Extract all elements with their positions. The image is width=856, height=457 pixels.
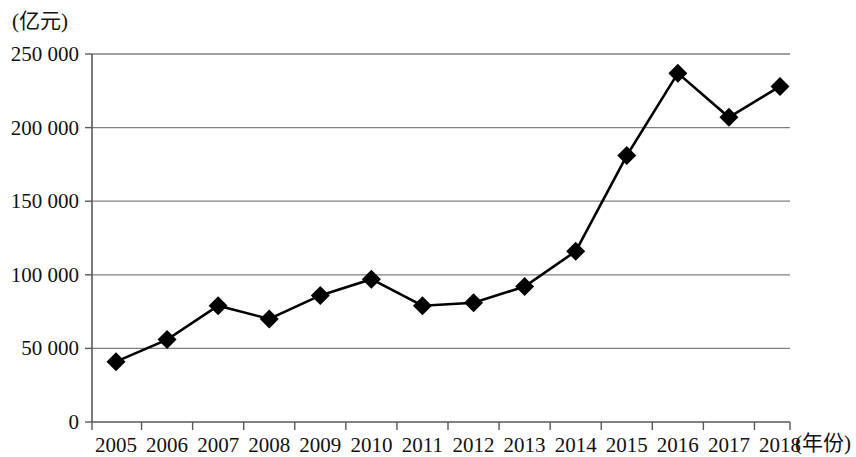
data-line-series	[116, 73, 780, 362]
y-tick-label: 50 000	[21, 336, 79, 360]
y-tick-label: 200 000	[11, 116, 79, 140]
x-tick-label: 2006	[146, 433, 188, 457]
y-tick-labels: 050 000100 000150 000200 000250 000	[11, 42, 79, 434]
x-tick-label: 2015	[606, 433, 648, 457]
data-point-marker	[617, 146, 636, 165]
x-tick-label: 2008	[248, 433, 290, 457]
x-tick-label: 2009	[299, 433, 341, 457]
x-tick-label: 2017	[708, 433, 750, 457]
data-point-marker	[413, 296, 432, 315]
y-axis	[85, 54, 92, 422]
data-point-marker	[260, 309, 279, 328]
x-tick-label: 2005	[95, 433, 137, 457]
x-tick-label: 2013	[504, 433, 546, 457]
x-tick-label: 2014	[555, 433, 598, 457]
data-point-marker	[566, 242, 585, 261]
x-tick-label: 2010	[350, 433, 392, 457]
x-tick-label: 2011	[402, 433, 443, 457]
data-point-marker	[107, 352, 126, 371]
data-point-marker	[311, 286, 330, 305]
x-axis	[92, 422, 790, 430]
y-tick-label: 0	[69, 410, 80, 434]
line-chart: 050 000100 000150 000200 000250 000 2005…	[0, 0, 856, 457]
x-tick-label: 2007	[197, 433, 239, 457]
data-point-marker	[515, 277, 534, 296]
data-point-marker	[158, 330, 177, 349]
x-tick-label: 2012	[453, 433, 495, 457]
data-point-marker	[209, 296, 228, 315]
x-tick-label: 2016	[657, 433, 699, 457]
y-tick-label: 250 000	[11, 42, 79, 66]
x-axis-name-label: (年份)	[795, 431, 851, 455]
data-point-markers	[107, 64, 790, 372]
data-point-marker	[464, 293, 483, 312]
chart-page: (亿元) 050 000100 000150 000200 000250 000…	[0, 0, 856, 457]
y-tick-label: 100 000	[11, 263, 79, 287]
data-point-marker	[771, 77, 790, 96]
data-point-marker	[362, 270, 381, 289]
x-tick-labels: 2005200620072008200920102011201220132014…	[95, 433, 801, 457]
y-tick-label: 150 000	[11, 189, 79, 213]
